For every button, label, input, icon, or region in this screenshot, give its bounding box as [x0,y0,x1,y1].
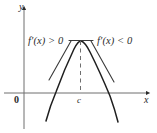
derivative-sign-figure: y x 0 c f′(x) > 0 f′(x) < 0 [0,0,157,133]
critical-point-label: c [77,96,81,105]
origin-label: 0 [14,95,19,105]
x-axis-label: x [144,95,148,105]
tangent-left-segment [49,41,71,80]
derivative-negative-label: f′(x) < 0 [97,36,132,47]
derivative-positive-label: f′(x) > 0 [28,36,63,47]
figure-canvas [0,0,157,133]
y-axis-label: y [19,2,23,12]
parabola-curve [46,41,118,122]
